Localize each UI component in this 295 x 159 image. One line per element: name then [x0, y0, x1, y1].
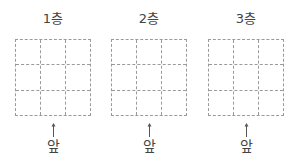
grid-divider-vertical: [161, 40, 162, 115]
grid-divider-horizontal: [112, 90, 186, 91]
floor-1-grid: [15, 39, 91, 116]
floor-2-plan: 2층 앞: [111, 0, 187, 159]
arrow-up-icon: [50, 123, 57, 137]
floor-1-front-label: 앞: [15, 137, 91, 155]
floor-2-front-label: 앞: [111, 137, 187, 155]
grid-divider-vertical: [65, 40, 66, 115]
grid-divider-vertical: [258, 40, 259, 115]
grid-divider-vertical: [233, 40, 234, 115]
grid-divider-horizontal: [209, 90, 283, 91]
floor-2-grid: [111, 39, 187, 116]
floor-3-front-label: 앞: [208, 137, 284, 155]
floor-1-plan: 1층 앞: [15, 0, 91, 159]
grid-divider-vertical: [40, 40, 41, 115]
floor-2-title: 2층: [111, 11, 187, 27]
floor-3-plan: 3층 앞: [208, 0, 284, 159]
grid-divider-horizontal: [16, 90, 90, 91]
grid-divider-horizontal: [16, 64, 90, 65]
floor-3-title: 3층: [208, 11, 284, 27]
arrow-up-icon: [146, 123, 153, 137]
floor-3-grid: [208, 39, 284, 116]
arrow-up-icon: [243, 123, 250, 137]
grid-divider-horizontal: [209, 64, 283, 65]
grid-divider-horizontal: [112, 64, 186, 65]
grid-divider-vertical: [136, 40, 137, 115]
floor-1-title: 1층: [15, 11, 91, 27]
